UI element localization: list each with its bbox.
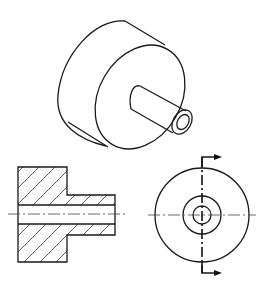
section-view <box>0 130 200 286</box>
end-view <box>148 154 256 276</box>
isometric-view <box>58 21 203 165</box>
hollow-shaft <box>130 86 196 138</box>
arrow-top-icon <box>214 154 222 160</box>
disk-back-edge <box>58 21 125 146</box>
disk-top-edge <box>125 21 165 45</box>
section-outline <box>18 167 115 262</box>
drawing-svg <box>0 0 270 286</box>
arrow-bottom-icon <box>214 270 222 276</box>
technical-drawing <box>0 0 270 286</box>
disk-front-face <box>77 29 203 165</box>
